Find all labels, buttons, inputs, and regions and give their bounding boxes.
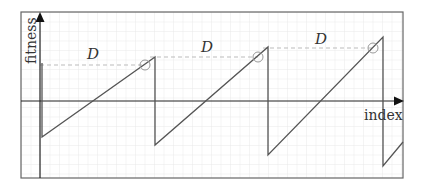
gap-label-d-3: D	[314, 30, 327, 48]
gap-label-d-1: D	[86, 45, 99, 63]
fitness-diagram: D D D fitness index	[0, 0, 421, 187]
gap-label-d-2: D	[200, 38, 213, 56]
y-axis-label: fitness	[23, 17, 39, 64]
x-axis-label: index	[364, 107, 403, 123]
